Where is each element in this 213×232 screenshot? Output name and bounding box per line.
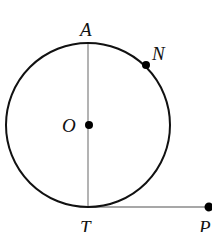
point-N: [142, 61, 150, 69]
geometry-diagram: A N O T P: [0, 0, 212, 232]
label-T: T: [80, 217, 92, 232]
label-P: P: [198, 217, 211, 232]
circle-tangent-figure: A N O T P: [0, 0, 212, 232]
label-A: A: [78, 19, 92, 40]
label-N: N: [151, 43, 166, 64]
label-O: O: [62, 115, 76, 136]
point-O-center: [85, 121, 93, 129]
point-P: [205, 203, 213, 212]
